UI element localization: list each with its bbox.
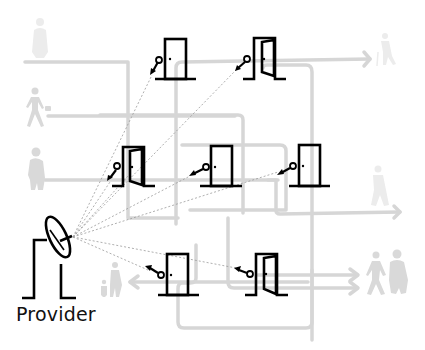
door-2-icon [235, 38, 286, 79]
door-1-icon [150, 39, 196, 79]
beam-door-7 [73, 237, 236, 268]
person-walking-briefcase-icon [26, 88, 51, 128]
beam-door-6 [73, 237, 148, 270]
person-parent-child-icon [101, 262, 122, 297]
person-heavy-left-icon [28, 148, 45, 191]
route-paths [25, 52, 400, 340]
key-6-icon [145, 265, 164, 278]
key-1-icon [150, 57, 162, 75]
key-2-icon [235, 56, 250, 71]
person-top-left-icon [32, 18, 48, 58]
satellite-dish-icon [22, 213, 76, 298]
route-mid-box [182, 145, 286, 210]
route-lower-inner [228, 218, 356, 288]
beam-door-1 [73, 75, 152, 237]
person-top-right-icon [377, 33, 396, 66]
beam-door-3 [73, 182, 110, 237]
access-network-diagram [0, 0, 425, 350]
route-top-loop [176, 59, 370, 224]
provider-label: Provider [16, 303, 96, 325]
key-7-icon [234, 266, 253, 277]
route-upper-box [100, 115, 243, 213]
key-4-icon [189, 164, 209, 176]
couple-right-icon [366, 250, 408, 296]
door-6-icon [145, 254, 199, 295]
beam-door-4 [73, 176, 190, 237]
person-mid-right-icon [371, 166, 389, 207]
